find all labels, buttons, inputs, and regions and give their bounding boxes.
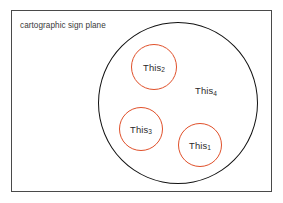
free-label-this4: This4 [195, 85, 217, 96]
sign-circle-this1: This1 [178, 123, 222, 167]
sign-circle-this3-label: This3 [130, 124, 152, 135]
diagram-canvas: cartographic sign plane This2 This3 This… [0, 0, 283, 203]
sign-circle-this1-label: This1 [189, 140, 211, 151]
sign-circle-this2: This2 [131, 44, 177, 90]
sign-circle-this3: This3 [119, 107, 163, 151]
cartographic-sign-plane-label: cartographic sign plane [20, 20, 106, 32]
sign-system-circle [98, 22, 258, 184]
sign-circle-this2-label: This2 [143, 62, 165, 73]
